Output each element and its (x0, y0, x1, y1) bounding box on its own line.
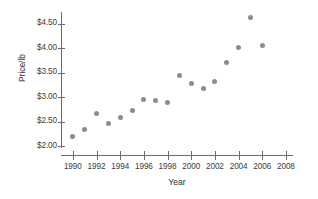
y-axis-tick-label: $3.50 (37, 67, 57, 76)
data-point (248, 15, 253, 20)
y-axis-tick-label: $4.00 (37, 43, 57, 52)
x-axis-tick (73, 151, 74, 160)
x-axis-tick (262, 151, 263, 160)
data-point (82, 127, 87, 132)
data-point (153, 98, 158, 103)
data-point (141, 97, 146, 102)
x-axis-tick (215, 151, 216, 160)
data-point (106, 121, 111, 126)
data-point (165, 100, 170, 105)
x-axis-tick (286, 151, 287, 160)
data-point (260, 43, 265, 48)
y-axis-tick-labels: $2.00$2.50$3.00$3.50$4.00$4.50 (18, 0, 57, 199)
data-point (130, 108, 135, 113)
x-axis-tick-label: 2008 (271, 162, 301, 171)
x-axis-tick (191, 151, 192, 160)
scatter-chart: $2.00$2.50$3.00$3.50$4.00$4.50 199019921… (0, 0, 318, 199)
data-point (70, 134, 75, 139)
y-axis-tick-label: $2.00 (37, 141, 57, 150)
x-axis-tick (168, 151, 169, 160)
y-axis-title: Price/lb (17, 38, 27, 98)
y-axis-tick-label: $2.50 (37, 116, 57, 125)
data-point (189, 81, 194, 86)
x-axis-tick (239, 151, 240, 160)
x-axis-tick (97, 151, 98, 160)
x-axis-title: Year (61, 177, 293, 187)
data-point (201, 86, 206, 91)
data-point (94, 111, 99, 116)
data-point (224, 60, 229, 65)
data-point (177, 73, 182, 78)
y-axis-tick-label: $4.50 (37, 18, 57, 27)
data-point (236, 45, 241, 50)
y-axis-tick-label: $3.00 (37, 92, 57, 101)
y-axis-tick (58, 146, 65, 147)
x-axis-tick (120, 151, 121, 160)
data-point (212, 79, 217, 84)
data-point (118, 115, 123, 120)
x-axis-tick (144, 151, 145, 160)
data-points-layer (61, 10, 293, 140)
